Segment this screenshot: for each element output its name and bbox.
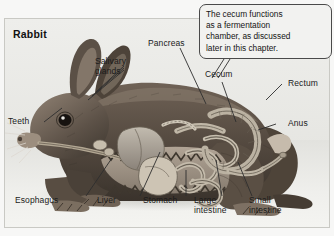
page-title: Rabbit: [13, 28, 47, 40]
label-teeth: Teeth: [8, 117, 29, 127]
label-stomach: Stomach: [143, 196, 177, 206]
label-small-intestine: Small intestine: [249, 196, 282, 215]
label-esophagus: Esophagus: [15, 196, 58, 206]
cecum-callout-box: The cecum functions as a fermentation ch…: [199, 4, 332, 59]
label-large-intestine: Large intestine: [194, 196, 227, 215]
label-anus: Anus: [288, 119, 308, 129]
label-rectum: Rectum: [288, 79, 318, 89]
label-liver: Liver: [97, 196, 116, 206]
cecum-callout-text: The cecum functions as a fermentation ch…: [206, 9, 326, 54]
rabbit-digestive-anatomy-figure: Rabbit The cecum functions as a fermenta…: [0, 0, 334, 236]
label-cecum: Cecum: [205, 70, 232, 80]
label-salivary-glands: Salivary glands: [95, 57, 126, 76]
label-pancreas: Pancreas: [148, 39, 185, 49]
